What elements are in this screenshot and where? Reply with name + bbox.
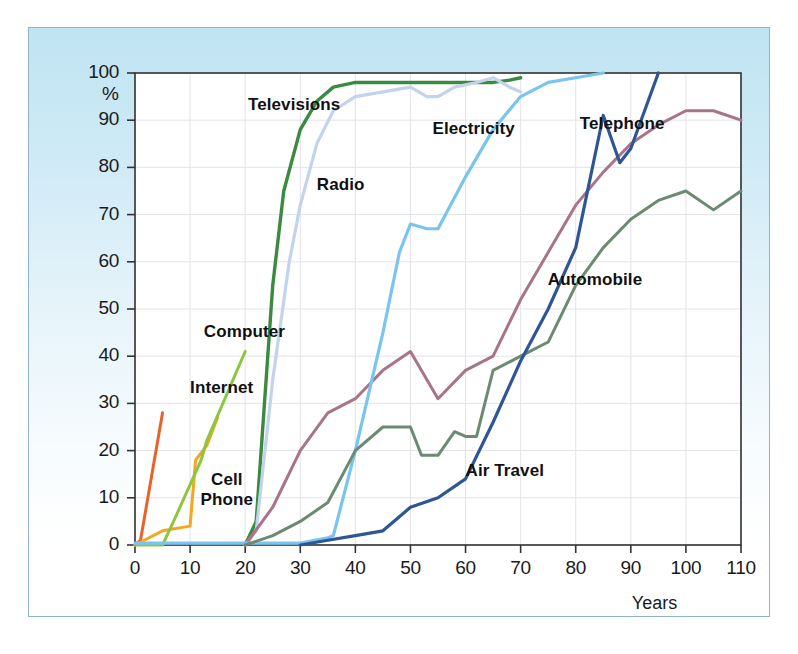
series-label-automobile: Automobile [548,270,643,290]
x-axis-title: Years [632,593,677,614]
y-tick-label: 60 [73,250,119,272]
figure-panel: 0102030405060708090100% 0102030405060708… [28,27,770,617]
y-tick-label: 100 [73,61,119,83]
x-tick-label: 70 [496,557,546,579]
x-tick-label: 20 [220,557,270,579]
y-tick-label: 90 [73,108,119,130]
x-tick-label: 110 [716,557,766,579]
x-tick-label: 30 [275,557,325,579]
x-tick-label: 60 [441,557,491,579]
y-tick-label: 20 [73,439,119,461]
series-label-electricity: Electricity [432,119,514,139]
x-tick-label: 0 [110,557,160,579]
y-tick-label: 70 [73,203,119,225]
y-axis-unit-label: % [73,83,119,105]
x-tick-label: 40 [330,557,380,579]
series-label-cell-phone: Cell Phone [193,470,261,509]
series-label-computer: Computer [204,322,285,342]
y-tick-label: 0 [73,533,119,555]
series-label-radio: Radio [317,175,365,195]
series-label-air-travel: Air Travel [466,461,545,481]
y-tick-label: 10 [73,486,119,508]
x-tick-label: 100 [661,557,711,579]
x-tick-label: 10 [165,557,215,579]
y-tick-label: 50 [73,297,119,319]
y-tick-label: 80 [73,155,119,177]
series-label-telephone: Telephone [580,114,665,134]
y-tick-label: 30 [73,391,119,413]
x-tick-label: 90 [606,557,656,579]
x-tick-label: 80 [551,557,601,579]
series-label-internet: Internet [190,378,253,398]
series-label-televisions: Televisions [248,95,340,115]
x-tick-label: 50 [385,557,435,579]
y-tick-label: 40 [73,344,119,366]
